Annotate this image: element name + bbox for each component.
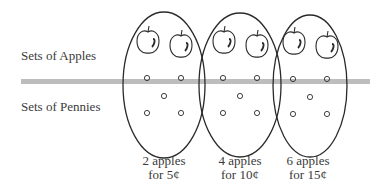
pennies-row-label: Sets of Pennies bbox=[21, 99, 100, 115]
set-caption-1-line2: for 5¢ bbox=[124, 168, 204, 182]
penny-icon bbox=[324, 111, 329, 116]
apple-mark bbox=[228, 39, 231, 47]
penny-icon bbox=[178, 110, 183, 115]
divider-bar bbox=[21, 79, 370, 84]
set-caption-1: 2 apples for 5¢ bbox=[124, 154, 204, 182]
apple-mark bbox=[185, 43, 188, 51]
set-ellipse-2 bbox=[199, 13, 281, 157]
apple-icon bbox=[283, 32, 305, 54]
apple-mark bbox=[298, 40, 301, 48]
set-caption-3: 6 apples for 15¢ bbox=[268, 154, 348, 182]
set-caption-3-line2: for 15¢ bbox=[268, 168, 348, 182]
penny-icon bbox=[161, 93, 166, 98]
penny-icon bbox=[220, 110, 225, 115]
penny-icon bbox=[254, 110, 259, 115]
penny-icon bbox=[290, 111, 295, 116]
apple-icon bbox=[246, 35, 268, 57]
apple-icon bbox=[170, 35, 192, 57]
apples-pennies-diagram: Sets of Apples Sets of Pennies 2 apples … bbox=[0, 0, 387, 192]
set-ellipse-1 bbox=[123, 12, 205, 158]
apple-mark bbox=[331, 44, 334, 52]
penny-icon bbox=[144, 110, 149, 115]
apples-row-label: Sets of Apples bbox=[21, 48, 96, 64]
penny-icon bbox=[237, 93, 242, 98]
apple-mark bbox=[152, 39, 155, 47]
apple-mark bbox=[261, 43, 264, 51]
set-caption-3-line1: 6 apples bbox=[268, 154, 348, 168]
apple-icon bbox=[137, 31, 159, 53]
penny-icon bbox=[307, 94, 312, 99]
set-caption-1-line1: 2 apples bbox=[124, 154, 204, 168]
apple-icon bbox=[213, 31, 235, 53]
apple-icon bbox=[316, 36, 338, 58]
